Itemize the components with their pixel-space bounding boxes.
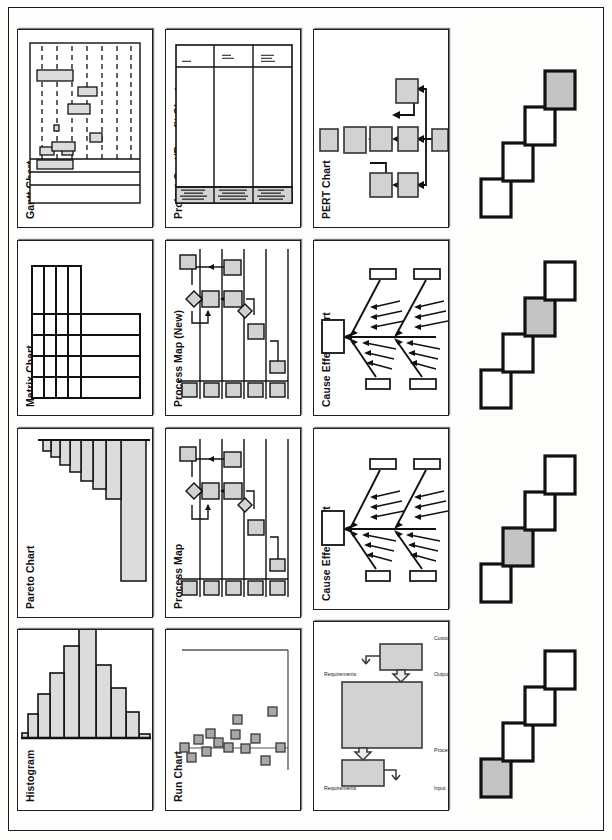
panel-process-map-new[interactable]: Process Map (New) xyxy=(165,240,301,416)
sipoc-label-customer: Customer xyxy=(434,635,449,641)
sipoc-label-output: Output xyxy=(434,671,449,677)
panel-process-map[interactable]: Process Map xyxy=(165,428,301,618)
pert-diagram xyxy=(314,30,448,227)
staircase-4-step-2 xyxy=(503,143,533,181)
staircase-3-step-4 xyxy=(545,262,575,300)
sipoc-label-requirements-2: Requirements xyxy=(324,671,357,677)
pareto-chart xyxy=(18,429,152,617)
panel-gantt[interactable]: Gantt Chart xyxy=(17,29,153,228)
panel-row-2: Run Chart xyxy=(165,15,301,825)
panel-matrix[interactable]: Matrix Chart xyxy=(17,240,153,416)
sipoc-label-requirements-1: Requirements xyxy=(324,785,357,791)
staircase-3-step-2 xyxy=(503,334,533,372)
sipoc-diagram: Input Process Output Customer Requiremen… xyxy=(314,622,448,810)
panel-histogram[interactable]: Histogram xyxy=(17,629,153,811)
process-map-new-diagram xyxy=(166,241,300,415)
staircase-4[interactable] xyxy=(461,45,597,225)
panel-run-chart[interactable]: Run Chart xyxy=(165,629,301,811)
staircase-2-step-1 xyxy=(481,564,511,602)
staircase-2[interactable] xyxy=(461,430,597,610)
staircase-2-step-3 xyxy=(525,492,555,530)
run-chart xyxy=(166,630,300,810)
panel-row-1: Histogram xyxy=(17,15,153,825)
staircase-1-step-2 xyxy=(503,723,533,761)
panel-cause-effect-1[interactable]: Cause Effect Chart xyxy=(313,428,449,610)
staircase-2-step-4 xyxy=(545,456,575,494)
staircase-1-step-4 xyxy=(545,651,575,689)
poster-canvas: Histogram xyxy=(17,15,595,825)
panel-cost-benefit[interactable]: Project Cost/Benefit Chart xyxy=(165,29,301,228)
staircase-row xyxy=(461,15,587,825)
panel-pert[interactable]: PERT Chart xyxy=(313,29,449,228)
staircase-1-step-1 xyxy=(481,759,511,797)
histogram-chart xyxy=(18,630,152,810)
staircase-1-step-3 xyxy=(525,687,555,725)
sipoc-label-input: Input xyxy=(434,785,446,791)
sipoc-label-process: Process xyxy=(434,747,449,753)
cost-benefit-table xyxy=(166,30,300,227)
staircase-4-step-4 xyxy=(545,71,575,109)
process-map-diagram xyxy=(166,429,300,617)
staircase-4-step-3 xyxy=(525,107,555,145)
staircase-4-step-1 xyxy=(481,179,511,217)
staircase-3-step-1 xyxy=(481,370,511,408)
fishbone-diagram-2 xyxy=(314,241,448,415)
staircase-2-step-2 xyxy=(503,528,533,566)
matrix-chart xyxy=(18,241,152,415)
fishbone-diagram-1 xyxy=(314,429,448,609)
scanned-page: Histogram xyxy=(0,0,612,840)
panel-pareto[interactable]: Pareto Chart xyxy=(17,428,153,618)
gantt-chart xyxy=(18,30,152,227)
panel-cause-effect-2[interactable]: Cause Effect Chart xyxy=(313,240,449,416)
staircase-3[interactable] xyxy=(461,236,597,416)
staircase-1[interactable] xyxy=(461,625,597,805)
staircase-3-step-3 xyxy=(525,298,555,336)
panel-sipoc[interactable]: Input Process Output Customer Requiremen… xyxy=(313,621,449,811)
panel-row-3: Input Process Output Customer Requiremen… xyxy=(313,15,449,825)
